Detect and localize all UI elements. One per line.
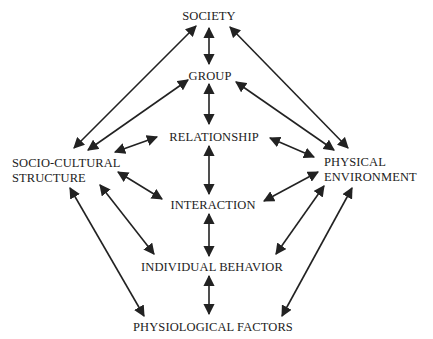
edge-physiological-socio-cultural bbox=[70, 188, 144, 316]
node-physical-env-line1: PHYSICAL bbox=[324, 155, 386, 169]
edge-physiological-physical-env bbox=[282, 188, 352, 316]
edge-interaction-socio-cultural bbox=[118, 172, 162, 199]
node-group: GROUP bbox=[189, 69, 232, 83]
edge-interaction-physical-env bbox=[264, 172, 318, 201]
node-society: SOCIETY bbox=[182, 9, 235, 23]
node-individual-behavior: INDIVIDUAL BEHAVIOR bbox=[141, 260, 283, 274]
node-relationship: RELATIONSHIP bbox=[169, 130, 258, 144]
node-physiological-factors: PHYSIOLOGICAL FACTORS bbox=[133, 320, 293, 334]
edge-individual-behavior-physical-env bbox=[276, 186, 324, 254]
edge-individual-behavior-socio-cultural bbox=[100, 185, 154, 254]
edge-relationship-socio-cultural bbox=[115, 137, 157, 152]
node-interaction: INTERACTION bbox=[170, 198, 255, 212]
node-physical-env-line2: ENVIRONMENT bbox=[324, 170, 417, 184]
node-socio-cultural-line1: SOCIO-CULTURAL bbox=[12, 156, 121, 170]
node-socio-cultural-line2: STRUCTURE bbox=[12, 171, 86, 185]
relationship-diagram: SOCIETY GROUP RELATIONSHIP INTERACTION I… bbox=[0, 0, 433, 339]
edge-relationship-physical-env bbox=[270, 138, 314, 157]
